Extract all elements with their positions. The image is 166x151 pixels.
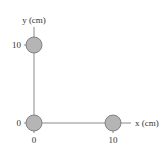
mass-circle-y10	[26, 37, 42, 53]
y-tick-label-10: 10	[12, 40, 22, 50]
mass-circle-x10	[105, 115, 121, 131]
x-tick-label-10: 10	[109, 135, 119, 145]
y-tick-label-0: 0	[17, 118, 22, 128]
coordinate-diagram: y (cm) x (cm) 10 0 0 10	[0, 0, 166, 151]
x-tick-label-0: 0	[32, 135, 37, 145]
x-axis-label: x (cm)	[135, 118, 159, 128]
y-axis-label: y (cm)	[22, 15, 46, 25]
mass-circle-origin	[26, 115, 42, 131]
